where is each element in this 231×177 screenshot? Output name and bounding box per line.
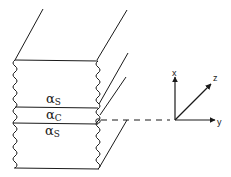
- bottom-diagonal: [99, 120, 127, 168]
- bottom-boundary: [14, 168, 99, 169]
- label-lower-cladding: αS: [45, 123, 60, 139]
- y-axis-label: y: [217, 117, 222, 127]
- upper-interface: [15, 107, 98, 108]
- label-upper-cladding: αS: [46, 91, 61, 107]
- top-right-diagonal: [97, 10, 127, 60]
- z-axis-arrow: [175, 84, 211, 120]
- right-wavy-edge: [96, 61, 100, 169]
- lower-interface: [13, 123, 98, 124]
- top-boundary: [15, 60, 98, 61]
- z-axis-label: z: [213, 73, 218, 83]
- slab-structure: [13, 9, 170, 169]
- top-left-diagonal: [15, 9, 43, 60]
- waveguide-diagram: αS αC αS x y z: [0, 0, 231, 177]
- layer-labels: αS αC αS: [45, 91, 62, 139]
- label-core: αC: [46, 107, 62, 123]
- x-axis-label: x: [172, 68, 177, 78]
- upper-interface-diagonal: [99, 53, 128, 104]
- coordinate-axes: [175, 77, 215, 120]
- left-wavy-edge: [13, 60, 17, 168]
